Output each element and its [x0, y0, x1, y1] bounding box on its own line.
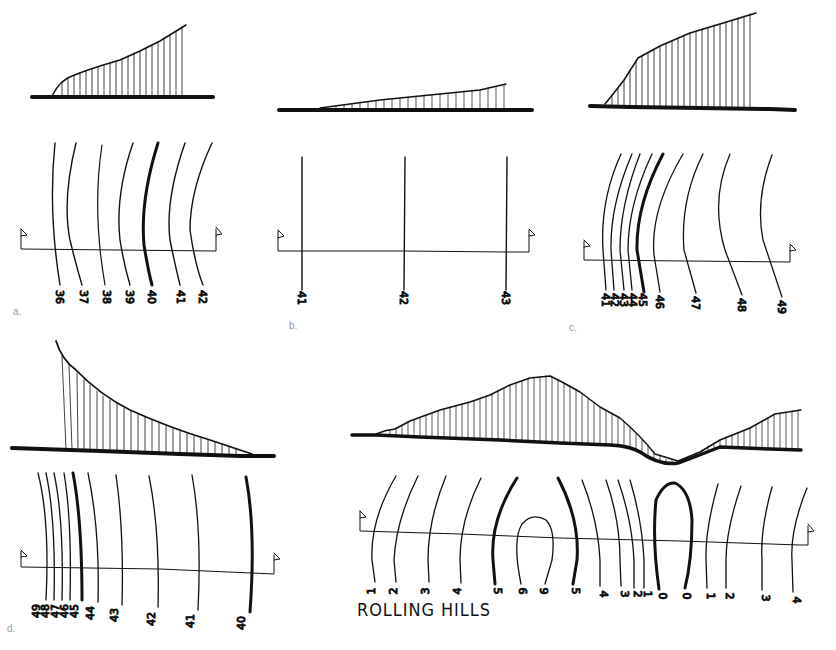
panel-b: 41 42 43: [278, 84, 535, 305]
contour-label: 47: [689, 296, 702, 310]
contour-label: 44: [84, 606, 97, 620]
panel-a-profile: [32, 25, 213, 97]
figure-title: ROLLING HILLS: [357, 600, 491, 620]
contour-label: 3: [618, 591, 631, 598]
contour-diagram: 36 37 38 39 40 41 42: [0, 0, 836, 650]
panel-rolling-hills: 1 2 3 4 5 6 6 5 4 3 2 1 0 0 1 2 3: [352, 376, 814, 604]
contour-label: 1: [641, 591, 654, 598]
panel-letter-a: a.: [13, 306, 21, 317]
contour-label: 45: [636, 293, 649, 307]
contour-label: 5: [491, 588, 504, 595]
panel-d-labels: 49 48 47 46 45 44 43 42 41 40: [30, 604, 248, 630]
panel-a: 36 37 38 39 40 41 42: [21, 25, 222, 304]
contour-label: 4: [451, 588, 464, 595]
contour-label: 40: [235, 616, 248, 630]
contour-label: 42: [196, 290, 209, 304]
contour-label: 41: [184, 614, 197, 628]
contour-label: 42: [145, 612, 158, 626]
contour-label: 4: [790, 597, 803, 604]
contour-label: 41: [295, 291, 308, 305]
contour-label: 43: [108, 608, 121, 622]
contour-label: 2: [723, 593, 736, 600]
contour-label: 1: [704, 593, 717, 600]
rolling-hills-hatching: [390, 376, 798, 463]
panel-c-plan: [584, 154, 796, 297]
panel-c-profile: [590, 13, 795, 110]
panel-b-labels: 41 42 43: [295, 291, 512, 305]
contour-label: 3: [759, 595, 772, 602]
contour-label: 1: [365, 588, 378, 595]
contour-label: 40: [145, 290, 158, 304]
contour-label: 37: [77, 290, 90, 304]
panel-a-labels: 36 37 38 39 40 41 42: [53, 290, 209, 304]
contour-label: 43: [499, 291, 512, 305]
rolling-hills-profile: [352, 376, 801, 464]
contour-label: 5: [569, 588, 582, 595]
panel-letter-c: c.: [569, 322, 577, 333]
contour-label: 39: [123, 290, 136, 304]
panel-d-plan: [21, 473, 280, 612]
contour-label: 0: [656, 593, 669, 600]
panel-b-hatching: [336, 85, 504, 109]
panel-d-profile: [12, 341, 274, 456]
contour-label: 6: [538, 588, 551, 595]
contour-label: 45: [68, 604, 81, 618]
contour-label: 3: [419, 588, 432, 595]
contour-label: 2: [387, 588, 400, 595]
contour-label: 0: [680, 593, 693, 600]
panel-b-profile: [279, 84, 532, 110]
diagram-stage: 36 37 38 39 40 41 42: [0, 0, 836, 650]
contour-label: 6: [516, 588, 529, 595]
panel-letter-b: b.: [289, 320, 297, 331]
panel-a-plan: [21, 143, 222, 285]
contour-label: 42: [397, 291, 410, 305]
contour-label: 4: [597, 591, 610, 598]
panel-b-plan: [278, 157, 535, 290]
panel-c-labels: 41 42 43 44 45 46 47 48 49: [599, 293, 788, 314]
panel-a-hatching: [62, 27, 182, 96]
contour-label: 46: [653, 295, 666, 309]
panel-d: 49 48 47 46 45 44 43 42 41 40: [12, 341, 280, 630]
contour-label: 38: [100, 290, 113, 304]
panel-c: 41 42 43 44 45 46 47 48 49: [584, 13, 796, 314]
contour-label: 41: [174, 290, 187, 304]
panel-c-hatching: [612, 14, 750, 108]
panel-letter-d: d.: [7, 623, 15, 634]
contour-label: 36: [53, 290, 66, 304]
contour-label: 48: [735, 298, 748, 312]
contour-label: 49: [775, 300, 788, 314]
rolling-hills-plan: [360, 476, 814, 592]
